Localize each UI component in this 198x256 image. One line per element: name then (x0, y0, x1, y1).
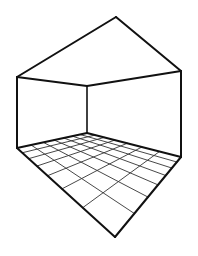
floor-grid-line (64, 138, 166, 176)
roof-left-edge (17, 17, 116, 77)
ceiling-left-edge (17, 77, 87, 86)
room-outline (17, 17, 181, 237)
floor-grid-line (31, 145, 134, 214)
roof-right-edge (116, 17, 181, 71)
room-perspective-drawing (0, 0, 198, 256)
floor-grid-line (43, 142, 148, 197)
ceiling-right-edge (87, 71, 181, 86)
floor-front-left-edge (17, 148, 115, 237)
floor-grid-line (48, 143, 128, 175)
room-drawing-canvas (0, 0, 198, 256)
